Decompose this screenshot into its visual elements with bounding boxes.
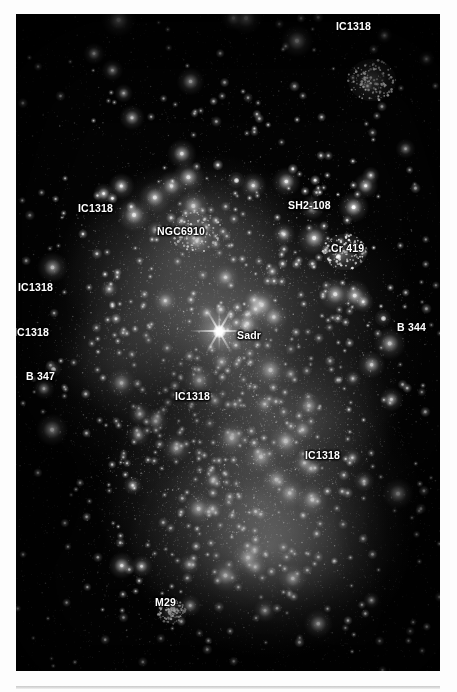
astro-photograph: IC1318IC1318NGC6910SH2-108Cr 419IC1318IC… xyxy=(16,14,440,671)
starfield-canvas xyxy=(16,14,440,671)
page-separator-rule xyxy=(16,686,440,689)
star-chart-page: IC1318IC1318NGC6910SH2-108Cr 419IC1318IC… xyxy=(0,0,457,692)
